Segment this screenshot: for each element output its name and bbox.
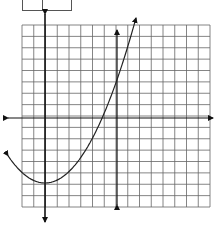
grid-lines [22,25,210,207]
coordinate-graph [0,0,221,226]
